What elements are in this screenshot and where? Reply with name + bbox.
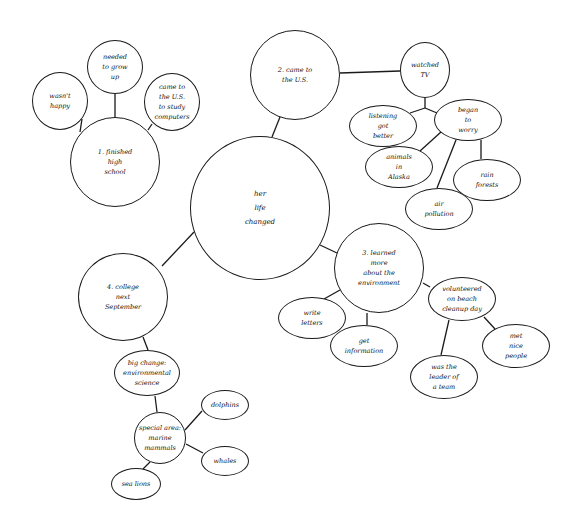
bubble-n3e: was the leader of a team [410,355,478,399]
bubble-n4a: big change: environmental science [114,350,180,396]
bubble-label: special area: marine mammals [137,421,183,455]
bubble-n4c: dolphins [201,390,249,420]
connector-n3c-n3e [441,320,449,355]
bubble-n4b: special area: marine mammals [134,412,186,464]
bubble-n2a: watched TV [400,42,450,98]
bubble-label: rain forests [474,168,501,192]
bubble-label: 4. college next September [103,280,143,314]
connector-n3-n3a [324,290,340,299]
bubble-label: write letters [299,306,324,330]
bubble-label: needed to grow up [100,50,129,84]
bubble-n2d: animals in Alaska [365,146,433,188]
bubble-n2b: listening got better [349,105,417,147]
bubble-label: dolphins [209,398,241,412]
bubble-label: big change: environmental science [121,356,173,390]
bubble-n4: 4. college next September [78,253,168,341]
connector-center-n4 [162,232,194,266]
bubble-label: listening got better [367,109,400,143]
bubble-label: volunteered on beach cleanup day [440,282,484,316]
idea-web-canvas: her life changed1. finished high schoolw… [0,0,578,519]
bubble-n4d: whales [201,446,249,476]
bubble-n3: 3. learned more about the environment [334,223,424,313]
bubble-label: 1. finished high school [96,145,134,179]
connector-n2c-n2d [420,132,441,151]
connector-n3-n3c [423,283,430,287]
connector-n4b-n4d [186,444,203,453]
connector-n4b-n4c [185,411,202,430]
connector-n2-n2a [340,71,400,73]
bubble-label: animals in Alaska [384,150,414,184]
bubble-n2: 2. came to the U.S. [250,30,340,120]
bubble-n4e: sea lions [111,468,161,500]
bubble-n1b: needed to grow up [87,40,143,94]
connector-n3c-n3d [484,317,495,329]
bubble-label: air pollution [422,197,455,221]
bubble-n3b: get information [330,325,398,367]
bubble-label: 2. came to the U.S. [276,63,314,87]
bubble-label: was the leader of a team [427,360,460,394]
connector-center-n3 [320,245,337,253]
bubble-label: began to worry [456,103,480,137]
connector-n1-n1c [148,124,152,130]
bubble-n2f: air pollution [405,188,473,230]
bubble-label: get information [343,334,386,358]
bubble-n1c: came to the U.S. to study computers [144,73,200,131]
connector-n4-n4a [143,337,148,350]
bubble-n3d: met nice people [482,324,550,368]
bubble-n1a: wasn't happy [32,72,88,130]
bubble-label: 3. learned more about the environment [356,246,402,290]
bubble-label: watched TV [409,58,441,82]
central-bubble-label: her life changed [243,185,277,231]
bubble-label: whales [212,454,239,468]
bubble-label: met nice people [503,329,529,363]
connector-n4a-n4b [155,396,157,412]
bubble-n2c: began to worry [434,99,502,141]
bubble-label: came to the U.S. to study computers [153,80,192,124]
bubble-n3c: volunteered on beach cleanup day [428,277,496,321]
connector-joint-n2b [410,108,425,113]
bubble-label: wasn't happy [47,89,72,113]
bubble-n1: 1. finished high school [70,117,160,207]
bubble-label: sea lions [120,477,153,491]
central-bubble: her life changed [190,136,330,280]
connector-center-n2 [272,117,280,137]
